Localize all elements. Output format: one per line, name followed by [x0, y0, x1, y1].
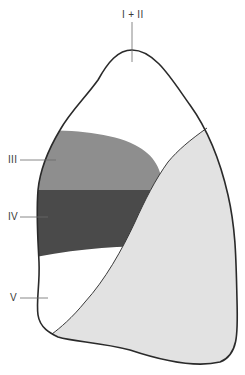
lung-segment-diagram: [0, 0, 245, 375]
label-segment-III: III: [8, 155, 17, 165]
label-apex: I + II: [122, 10, 144, 20]
label-segment-V: V: [10, 293, 17, 303]
label-segment-IV: IV: [8, 212, 18, 222]
